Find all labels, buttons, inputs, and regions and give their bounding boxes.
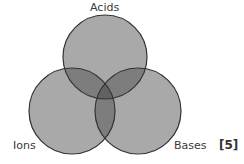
marks-indicator: [5] — [219, 138, 238, 152]
label-acids: Acids — [90, 1, 119, 14]
label-ions: Ions — [13, 139, 36, 152]
venn-diagram — [0, 0, 244, 164]
label-bases: Bases — [174, 139, 207, 152]
